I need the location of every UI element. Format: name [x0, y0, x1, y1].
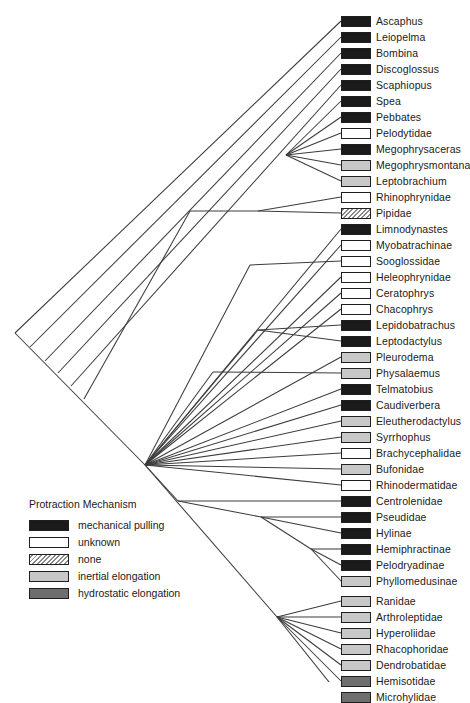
taxon-row: Arthroleptidae: [341, 611, 443, 623]
taxon-label: Phyllomedusinae: [376, 576, 457, 587]
branch-telmatobius: [145, 389, 341, 465]
state-swatch-mechanical-pulling: [341, 64, 371, 75]
state-swatch-mechanical-pulling: [341, 544, 371, 555]
taxon-label: Caudiverbera: [376, 400, 440, 411]
taxon-row: Pebbates: [341, 111, 421, 123]
branch-rhinophrynidae: [258, 197, 341, 211]
state-swatch-unknown: [341, 128, 371, 139]
taxon-row: Chacophrys: [341, 303, 433, 315]
taxon-row: Ceratophrys: [341, 287, 434, 299]
state-swatch-unknown: [341, 288, 371, 299]
taxon-row: Discoglossus: [341, 63, 439, 75]
taxon-label: Arthroleptidae: [376, 612, 443, 623]
taxon-label: Hemisotidae: [376, 676, 435, 687]
taxon-row: Caudiverbera: [341, 399, 440, 411]
taxon-label: Spea: [376, 96, 401, 107]
taxon-label: Limnodynastes: [376, 224, 448, 235]
taxon-label: Megophrysmontana: [376, 160, 470, 171]
taxon-label: Eleutherodactylus: [376, 416, 461, 427]
taxon-label: Hemiphractinae: [376, 544, 451, 555]
legend-swatch-mechanical-pulling: [29, 520, 69, 531]
taxon-label: Hylinae: [376, 528, 412, 539]
taxon-row: Megophrysaceras: [341, 143, 461, 155]
branch-bombina: [45, 53, 341, 361]
taxon-row: Limnodynastes: [341, 223, 448, 235]
taxon-row: Physalaemus: [341, 367, 440, 379]
taxon-row: Eleutherodactylus: [341, 415, 461, 427]
state-swatch-inertial-elongation: [341, 576, 371, 587]
state-swatch-hydrostatic-elongation: [341, 676, 371, 687]
state-swatch-unknown: [341, 240, 371, 251]
taxon-row: Bufonidae: [341, 463, 424, 475]
taxon-label: Bufonidae: [376, 464, 424, 475]
taxon-row: Leiopelma: [341, 31, 425, 43]
state-swatch-mechanical-pulling: [341, 512, 371, 523]
state-swatch-mechanical-pulling: [341, 80, 371, 91]
branch-ceratophrys: [145, 293, 341, 465]
taxon-row: Rhinodermatidae: [341, 479, 457, 491]
state-swatch-none: [341, 208, 371, 219]
state-swatch-hydrostatic-elongation: [341, 692, 371, 703]
taxon-row: Heleophrynidae: [341, 271, 451, 283]
taxon-label: Ceratophrys: [376, 288, 434, 299]
legend-item-label: hydrostatic elongation: [78, 588, 180, 599]
state-swatch-mechanical-pulling: [341, 400, 371, 411]
branch-root-spine: [15, 333, 145, 465]
legend-swatch-none: [29, 554, 69, 565]
state-swatch-mechanical-pulling: [341, 144, 371, 155]
branch-leptobrachium: [286, 155, 341, 181]
state-swatch-inertial-elongation: [341, 160, 371, 171]
taxon-label: Microhylidae: [376, 692, 436, 703]
legend-item-mechanical-pulling: mechanical pulling: [29, 517, 214, 533]
state-swatch-inertial-elongation: [341, 176, 371, 187]
taxon-label: Rhinodermatidae: [376, 480, 457, 491]
taxon-label: Ranidae: [376, 596, 416, 607]
taxon-row: Ranidae: [341, 595, 416, 607]
taxon-row: Phyllomedusinae: [341, 575, 457, 587]
taxon-row: Dendrobatidae: [341, 659, 446, 671]
taxon-label: Dendrobatidae: [376, 660, 446, 671]
branch-phyllomedusinae: [311, 549, 341, 581]
state-swatch-inertial-elongation: [341, 612, 371, 623]
taxon-row: Rhacophoridae: [341, 643, 449, 655]
state-swatch-unknown: [341, 480, 371, 491]
taxon-row: Hyperoliidae: [341, 627, 436, 639]
taxon-label: Rhinophrynidae: [376, 192, 451, 203]
taxon-row: Hylinae: [341, 527, 412, 539]
legend-item-label: none: [78, 554, 101, 565]
taxon-label: Sooglossidae: [376, 256, 440, 267]
branch-ascaphus: [15, 21, 341, 333]
state-swatch-inertial-elongation: [341, 596, 371, 607]
state-swatch-inertial-elongation: [341, 368, 371, 379]
branch-pelodryadinae: [311, 549, 341, 565]
state-swatch-inertial-elongation: [341, 352, 371, 363]
taxon-label: Pipidae: [376, 208, 412, 219]
branch-caudiverbera: [145, 405, 341, 465]
taxon-label: Bombina: [376, 48, 418, 59]
state-swatch-unknown: [341, 256, 371, 267]
taxon-row: Brachycephalidae: [341, 447, 461, 459]
branch-spea: [286, 101, 341, 155]
taxon-row: Sooglossidae: [341, 255, 440, 267]
legend-item-unknown: unknown: [29, 534, 214, 550]
branch-ranidae: [277, 601, 341, 617]
branch-megophrysmontana: [286, 155, 341, 165]
branch-rhacophoridae: [277, 617, 341, 649]
state-swatch-mechanical-pulling: [341, 96, 371, 107]
taxon-label: Pseudidae: [376, 512, 427, 523]
taxon-row: Telmatobius: [341, 383, 433, 395]
taxon-row: Centrolenidae: [341, 495, 443, 507]
taxon-row: Megophrysmontana: [341, 159, 470, 171]
state-swatch-unknown: [341, 192, 371, 203]
taxon-label: Heleophrynidae: [376, 272, 451, 283]
taxon-row: Ascaphus: [341, 15, 423, 27]
taxon-row: Leptodactylus: [341, 335, 442, 347]
state-swatch-mechanical-pulling: [341, 112, 371, 123]
branch-heleophrynidae: [145, 277, 341, 465]
taxon-label: Myobatrachinae: [376, 240, 452, 251]
legend-item-label: inertial elongation: [78, 571, 160, 582]
legend-title: Protraction Mechanism: [29, 498, 214, 510]
taxon-label: Telmatobius: [376, 384, 433, 395]
taxon-label: Centrolenidae: [376, 496, 443, 507]
legend: Protraction Mechanism mechanical pulling…: [29, 498, 214, 602]
